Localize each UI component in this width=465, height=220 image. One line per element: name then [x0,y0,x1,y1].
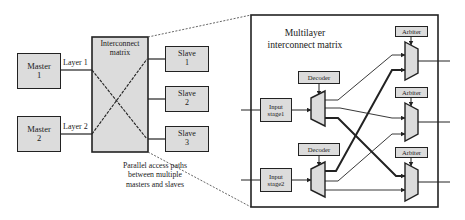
decoder-1-box: Decoder [298,71,340,84]
multilayer-title: Multilayer interconnect matrix [255,27,355,50]
arbiter-1-box: Arbiter [395,26,428,37]
input-stage-2-box: Input stage2 [260,168,292,192]
master-2-number: 2 [37,134,41,143]
interconnect-matrix-line2: matrix [92,49,148,58]
multilayer-title-line1: Multilayer [255,27,355,39]
layer-2-label: Layer 2 [63,123,88,131]
slave-3-box: Slave 3 [165,126,209,152]
arbiter-3-label: Arbiter [402,149,421,156]
input-stage-2-line1: Input [269,173,283,180]
decoder-1-label: Decoder [308,74,330,81]
input-stage-2-line2: stage2 [268,180,285,187]
zoom-line-top [148,15,251,37]
input-stage-1-line1: Input [269,103,283,110]
slave-2-number: 2 [185,99,189,108]
input-stage-1-box: Input stage1 [260,98,292,122]
mux-3-icon [405,163,418,201]
arbiter-3-box: Arbiter [395,147,428,158]
demux-2-icon [311,162,325,197]
arbiter-2-label: Arbiter [402,89,421,96]
master-2-box: Master 2 [17,116,61,152]
decoder-2-label: Decoder [308,146,330,153]
caption-line-2: between multiple [70,170,240,179]
slave-3-number: 3 [185,139,189,148]
decoder-2-box: Decoder [298,143,340,156]
interconnect-matrix-label: Interconnect matrix [92,40,148,58]
master-1-number: 1 [37,71,41,80]
arbiter-2-box: Arbiter [395,87,428,98]
left-caption: Parallel access paths between multiple m… [70,161,240,189]
multilayer-title-line2: interconnect matrix [255,39,355,51]
layer-1-label: Layer 1 [63,59,88,67]
mux-2-icon [405,103,418,141]
caption-line-1: Parallel access paths [70,161,240,170]
arbiter-1-label: Arbiter [402,28,421,35]
slave-2-box: Slave 2 [165,86,209,112]
mux-1-icon [405,42,418,80]
multilayer-interconnect-diagram: Master 1 Master 2 Layer 1 Layer 2 Interc… [0,0,465,220]
caption-line-3: masters and slaves [70,180,240,189]
slave-1-box: Slave 1 [165,46,209,72]
slave-1-number: 1 [185,59,189,68]
master-1-box: Master 1 [17,53,61,89]
input-stage-1-line2: stage1 [268,110,285,117]
demux-1-icon [311,91,325,126]
